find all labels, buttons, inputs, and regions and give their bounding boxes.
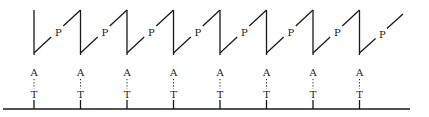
diagonal-segment xyxy=(360,39,376,53)
label-t: T xyxy=(217,89,224,100)
label-a: A xyxy=(262,67,271,78)
label-t: T xyxy=(31,89,38,100)
diagonal-segment xyxy=(249,10,266,26)
label-a: A xyxy=(215,67,224,78)
diagram-canvas: ATPATPATPATPATPATPATPATP xyxy=(0,0,429,117)
label-t: T xyxy=(124,89,131,100)
label-t: T xyxy=(310,89,317,100)
diagonal-segment xyxy=(342,10,359,26)
label-t: T xyxy=(263,89,270,100)
label-a: A xyxy=(29,67,38,78)
diagonal-segment xyxy=(203,10,220,26)
label-p: P xyxy=(287,27,294,38)
diagonal-segment xyxy=(387,14,403,28)
label-p: P xyxy=(148,27,155,38)
diagonal-segment xyxy=(34,37,51,53)
diagonal-segment xyxy=(127,37,144,53)
diagonal-segment xyxy=(174,37,191,53)
label-p: P xyxy=(101,27,108,38)
diagonal-segment xyxy=(313,37,330,53)
label-a: A xyxy=(355,67,364,78)
label-p: P xyxy=(194,27,201,38)
label-p: P xyxy=(241,27,248,38)
label-a: A xyxy=(76,67,85,78)
label-p: P xyxy=(55,27,62,38)
label-t: T xyxy=(170,89,177,100)
diagonal-segment xyxy=(267,37,284,53)
diagonal-segment xyxy=(81,37,98,53)
diagonal-segment xyxy=(220,37,237,53)
diagonal-segment xyxy=(110,10,127,26)
label-t: T xyxy=(77,89,84,100)
label-p: P xyxy=(379,29,386,40)
diagonal-segment xyxy=(156,10,173,26)
label-a: A xyxy=(169,67,178,78)
diagonal-segment xyxy=(296,10,313,26)
label-a: A xyxy=(308,67,317,78)
label-p: P xyxy=(334,27,341,38)
label-a: A xyxy=(122,67,131,78)
sawtooth-diagram: ATPATPATPATPATPATPATPATP xyxy=(0,0,429,117)
diagonal-segment xyxy=(63,10,80,26)
label-t: T xyxy=(356,89,363,100)
